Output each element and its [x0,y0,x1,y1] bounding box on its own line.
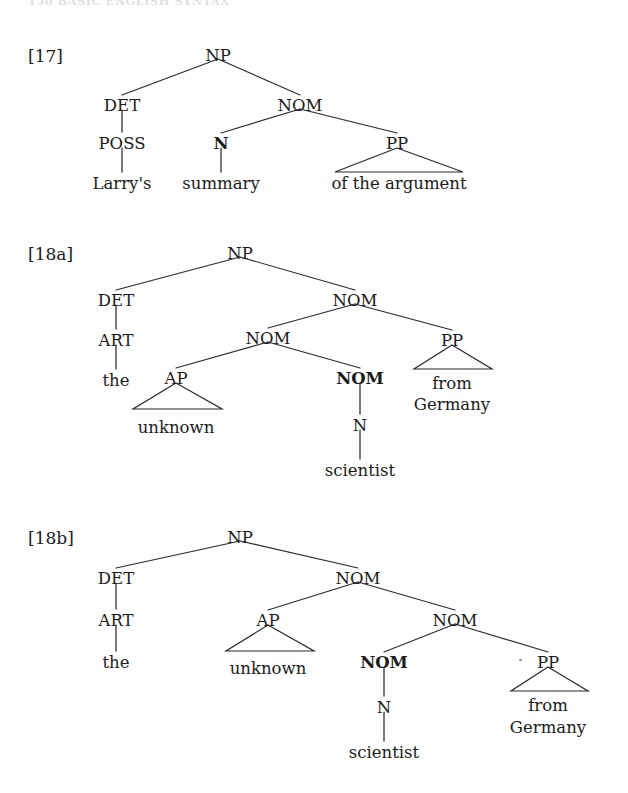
tree-node-art: ART [97,611,133,630]
tree-leaf-the: the [102,653,129,672]
tree-leaf-scientist: scientist [349,743,420,762]
syntax-tree-ex-18b: NPDETNOMARTAPNOMtheunknownNOMPPNfromGerm… [0,0,628,793]
ink-speck [519,659,522,661]
tree-node-ap: AP [255,611,279,630]
tree-node-nom2: NOM [433,611,478,630]
tree-node-nom3: NOM [360,653,408,672]
tree-leaf-unknown: unknown [230,659,307,678]
textbook-page: 150 BASIC ENGLISH SYNTAX [17]NPDETNOMPOS… [0,0,628,793]
tree-leaf-from: from [528,696,568,715]
tree-node-pp: PP [537,653,559,672]
tree-branch [240,541,358,568]
tree-leaf-germany: Germany [510,718,587,737]
tree-node-det: DET [98,569,134,588]
tree-branch [116,541,240,568]
tree-node-nom1: NOM [336,569,381,588]
tree-node-np: NP [227,528,253,547]
tree-node-n: N [377,698,391,717]
